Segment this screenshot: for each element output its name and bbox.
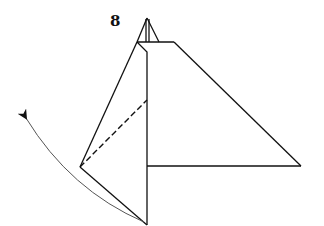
apex-flap (137, 18, 159, 42)
valley-fold-line (80, 100, 147, 167)
fold-diagram-canvas (0, 0, 324, 226)
center-edge (137, 42, 147, 225)
right-triangle-flap (147, 42, 301, 166)
